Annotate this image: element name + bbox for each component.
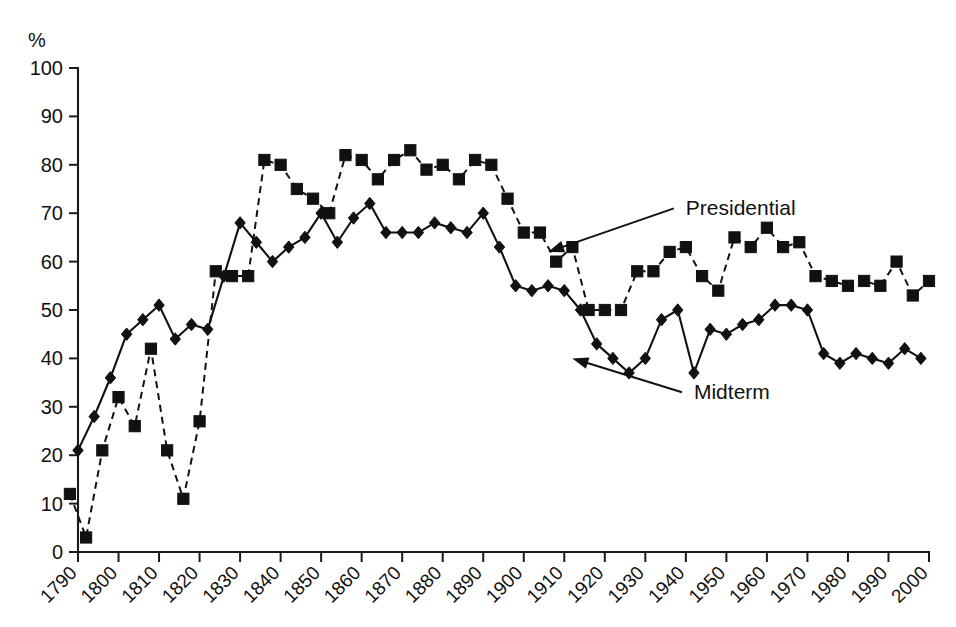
data-point-presidential (81, 532, 92, 543)
data-point-presidential (194, 416, 205, 427)
x-tick-label: 1880 (401, 562, 446, 607)
data-point-presidential (291, 183, 302, 194)
data-point-presidential (794, 237, 805, 248)
data-point-presidential (729, 232, 740, 243)
data-point-midterm (429, 217, 439, 229)
annotations-group: PresidentialMidterm (548, 196, 796, 403)
y-tick-label: 0 (52, 541, 63, 563)
y-axis-ticks: 0102030405060708090100 (30, 57, 78, 563)
data-point-midterm (851, 347, 861, 359)
x-tick-label: 1850 (279, 562, 324, 607)
data-point-presidential (405, 145, 416, 156)
data-point-presidential (356, 154, 367, 165)
data-point-presidential (826, 275, 837, 286)
x-tick-label: 1910 (522, 562, 567, 607)
data-point-presidential (551, 256, 562, 267)
x-tick-label: 1920 (563, 562, 608, 607)
data-point-presidential (470, 154, 481, 165)
data-point-presidential (713, 285, 724, 296)
chart-container: 1790180018101820183018401850186018701880… (0, 0, 956, 627)
data-point-presidential (372, 174, 383, 185)
data-point-midterm (721, 328, 731, 340)
data-point-midterm (705, 323, 715, 335)
data-point-presidential (453, 174, 464, 185)
data-point-presidential (113, 392, 124, 403)
data-point-midterm (867, 352, 877, 364)
y-tick-label: 40 (41, 347, 63, 369)
x-tick-label: 1940 (644, 562, 689, 607)
series-group (64, 145, 934, 543)
data-point-presidential (745, 241, 756, 252)
y-tick-label: 60 (41, 251, 63, 273)
annotation-arrow-head (548, 241, 565, 252)
data-point-midterm (202, 323, 212, 335)
data-point-presidential (696, 271, 707, 282)
x-tick-label: 1840 (239, 562, 284, 607)
data-point-presidential (778, 241, 789, 252)
axes-group (78, 68, 929, 552)
data-point-presidential (243, 271, 254, 282)
annotation-arrow-head (572, 357, 589, 368)
annotation-arrow-shaft (561, 208, 674, 247)
x-tick-label: 1980 (806, 562, 851, 607)
data-point-presidential (340, 150, 351, 161)
annotation-label-midterm: Midterm (694, 380, 770, 403)
data-point-presidential (891, 256, 902, 267)
data-point-presidential (664, 246, 675, 257)
data-point-presidential (64, 488, 75, 499)
data-point-midterm (89, 410, 99, 422)
data-point-midterm (510, 280, 520, 292)
data-point-presidential (680, 241, 691, 252)
y-tick-label: 20 (41, 444, 63, 466)
y-tick-label: 10 (41, 493, 63, 515)
data-point-presidential (534, 227, 545, 238)
data-point-midterm (689, 367, 699, 379)
data-point-midterm (397, 226, 407, 238)
data-point-presidential (632, 266, 643, 277)
data-point-presidential (761, 222, 772, 233)
x-tick-label: 1930 (603, 562, 648, 607)
x-tick-label: 1800 (77, 562, 122, 607)
data-point-presidential (923, 275, 934, 286)
data-point-midterm (835, 357, 845, 369)
x-axis-ticks: 1790180018101820183018401850186018701880… (36, 552, 932, 607)
y-tick-label: 90 (41, 105, 63, 127)
data-point-presidential (307, 193, 318, 204)
x-tick-label: 1790 (36, 562, 81, 607)
data-point-presidential (859, 275, 870, 286)
x-tick-label: 1950 (684, 562, 729, 607)
voter-turnout-chart: 1790180018101820183018401850186018701880… (0, 0, 956, 627)
x-tick-label: 1820 (158, 562, 203, 607)
data-point-presidential (518, 227, 529, 238)
annotation-arrow-shaft (586, 363, 682, 393)
y-tick-label: 50 (41, 299, 63, 321)
x-tick-label: 1990 (847, 562, 892, 607)
x-tick-label: 1970 (766, 562, 811, 607)
data-point-midterm (543, 280, 553, 292)
y-tick-label: 70 (41, 202, 63, 224)
data-point-presidential (615, 304, 626, 315)
data-point-midterm (673, 304, 683, 316)
data-point-midterm (916, 352, 926, 364)
data-point-midterm (802, 304, 812, 316)
data-point-midterm (737, 318, 747, 330)
data-point-midterm (105, 372, 115, 384)
data-point-presidential (388, 154, 399, 165)
data-point-presidential (97, 445, 108, 456)
y-axis-unit-label: % (28, 29, 46, 51)
x-tick-label: 2000 (887, 562, 932, 607)
data-point-presidential (648, 266, 659, 277)
data-point-midterm (818, 347, 828, 359)
y-tick-label: 100 (30, 57, 63, 79)
data-point-presidential (599, 304, 610, 315)
data-point-presidential (486, 159, 497, 170)
data-point-midterm (656, 313, 666, 325)
x-tick-label: 1960 (725, 562, 770, 607)
series-line-presidential (70, 150, 929, 537)
data-point-presidential (129, 421, 140, 432)
axis-lines (78, 68, 929, 552)
annotation-label-presidential: Presidential (686, 196, 796, 219)
data-point-presidential (502, 193, 513, 204)
data-point-presidential (875, 280, 886, 291)
data-point-presidential (145, 343, 156, 354)
